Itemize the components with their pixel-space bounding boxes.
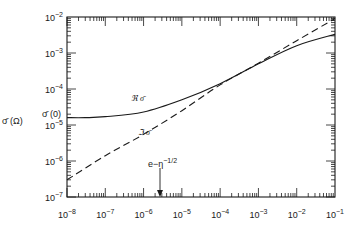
tick-label: 10−6 [135, 208, 153, 220]
imag-sigma-curve [67, 19, 335, 180]
tick-label: 10−2 [288, 208, 306, 220]
sigma-zero-label: σ̄ (0) [42, 109, 61, 119]
tick-label: 10−6 [45, 155, 63, 167]
tick-label: 10−4 [211, 208, 229, 220]
threshold-arrow: e−η−1/2 [148, 157, 177, 197]
tick-label: 10−7 [96, 208, 114, 220]
axis-ticks [67, 17, 335, 197]
y-tick-labels: 10−710−610−510−410−310−2 [45, 11, 63, 203]
tick-label: 10−2 [45, 11, 63, 23]
tick-label: 10−7 [45, 191, 63, 203]
tick-label: 10−5 [173, 208, 191, 220]
threshold-label: e−η−1/2 [148, 157, 177, 169]
log-log-chart: 10−810−710−610−510−410−310−210−1 10−710−… [0, 0, 354, 235]
plot-frame [67, 17, 335, 197]
imag-sigma-label: ℑ σ̄ [138, 128, 152, 137]
real-sigma-curve [67, 34, 335, 117]
real-sigma-label: ℜ σ̄ [131, 94, 146, 103]
tick-label: 10−4 [45, 83, 63, 95]
tick-label: 10−3 [45, 47, 63, 59]
tick-label: 10−5 [45, 119, 63, 131]
x-tick-labels: 10−810−710−610−510−410−310−210−1 [58, 208, 344, 220]
tick-label: 10−3 [249, 208, 267, 220]
tick-label: 10−8 [58, 208, 76, 220]
tick-label: 10−1 [326, 208, 344, 220]
y-axis-label: σ̄ (Ω) [2, 116, 23, 126]
